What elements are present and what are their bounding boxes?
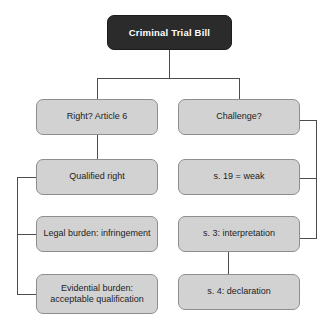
flowchart-canvas: Criminal Trial Bill Right? Article 6 Qua… — [0, 0, 332, 332]
connector-article6-to-qualified-right — [97, 135, 98, 159]
connector-right-bus-to-challenge — [300, 120, 317, 121]
node-label: s. 19 = weak — [209, 171, 270, 182]
node-label: s. 3: interpretation — [198, 228, 280, 239]
node-criminal-trial-bill[interactable]: Criminal Trial Bill — [107, 15, 232, 50]
node-label-line-1: Evidential burden: — [61, 283, 133, 293]
connector-root-to-right-article6 — [97, 78, 98, 99]
node-qualified-right[interactable]: Qualified right — [36, 159, 158, 195]
connector-left-bus-to-qualified-right — [17, 177, 36, 178]
node-label: Legal burden: infringement — [38, 228, 155, 239]
node-label: Qualified right — [64, 171, 130, 182]
node-evidential-burden[interactable]: Evidential burden: acceptable qualificat… — [36, 274, 158, 314]
connector-right-bus-to-s3 — [300, 238, 317, 239]
connector-root-to-challenge — [239, 78, 240, 99]
connector-left-bus-to-evidential-burden — [17, 294, 36, 295]
node-s4-declaration[interactable]: s. 4: declaration — [178, 274, 300, 310]
node-label: Evidential burden: acceptable qualificat… — [45, 283, 149, 306]
node-label: s. 4: declaration — [202, 286, 276, 297]
node-s19-weak[interactable]: s. 19 = weak — [178, 159, 300, 195]
node-right-article-6[interactable]: Right? Article 6 — [36, 99, 158, 135]
connector-root-stem — [169, 50, 170, 78]
connector-root-bus — [97, 78, 239, 79]
connector-left-bus-to-legal-burden — [17, 234, 36, 235]
node-label-line-2: acceptable qualification — [50, 294, 144, 304]
node-s3-interpretation[interactable]: s. 3: interpretation — [178, 216, 300, 252]
connector-right-bus — [316, 120, 317, 238]
node-challenge[interactable]: Challenge? — [178, 99, 300, 135]
node-legal-burden-infringement[interactable]: Legal burden: infringement — [36, 216, 158, 252]
connector-s3-to-s4 — [228, 252, 229, 274]
connector-left-bus — [17, 177, 18, 294]
node-label: Criminal Trial Bill — [124, 27, 215, 39]
node-label: Right? Article 6 — [62, 111, 133, 122]
connector-right-bus-to-s19 — [300, 178, 317, 179]
node-label: Challenge? — [211, 111, 267, 122]
